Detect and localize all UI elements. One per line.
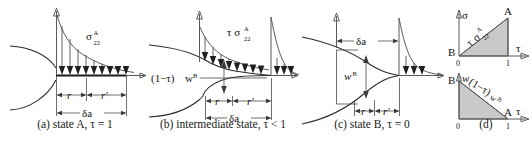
stress-label-a-sigma: σ [86, 30, 92, 42]
dim-rprime-b: r' [233, 95, 272, 107]
stress-label-a-sup: A [94, 29, 99, 36]
panel-d-top-plot: σ τ B A 0 1 τ σ 22 A [448, 5, 529, 68]
panel-b-drawing: τ σ 22 A (1−τ) w B [143, 0, 303, 132]
dim-deltaa-a-label: δa [82, 107, 92, 119]
opening-dim-c-sup: B [353, 70, 358, 77]
top-plot-point-b: B [448, 46, 455, 58]
dim-rprime-a-label: r' [101, 89, 108, 101]
opening-label-b-w: w [185, 72, 193, 84]
bottom-plot-xlabel: τ [516, 105, 521, 117]
crack-flank-lower-b [149, 92, 205, 117]
dim-deltaa-c-label: δa [356, 35, 366, 47]
bottom-plot-curve-label-w: w [488, 93, 498, 104]
stress-label-a-sub: 22 [94, 39, 101, 46]
panel-d-caption: (d) [440, 118, 532, 130]
traction-arrows-b [202, 37, 294, 75]
opening-dim-c-w: w [344, 70, 352, 82]
dim-rprime-b-label: r' [247, 95, 254, 107]
dim-r-a: r [57, 89, 87, 101]
panel-a-drawing: σ 22 A r r' [0, 0, 150, 132]
top-plot-ylabel: σ [462, 9, 468, 21]
dim-r-c-label: r [361, 105, 366, 117]
panel-b: τ σ 22 A (1−τ) w B [143, 0, 303, 132]
stress-label-b-tau-sigma: τ σ [227, 26, 240, 38]
stress-label-b-sup: A [244, 25, 249, 32]
stress-envelope-b-right [271, 17, 299, 75]
panel-c: δa w B r [296, 0, 448, 132]
dim-rprime-c: r' [375, 105, 400, 117]
dim-r-b: r [206, 95, 233, 107]
panel-c-drawing: δa w B r [296, 0, 448, 132]
panel-b-caption: (b) intermediate state, τ < 1 [143, 118, 303, 130]
crack-flank-lower-a [10, 80, 56, 110]
crack-flank-upper-a [10, 46, 56, 68]
dim-deltaa-a: δa [57, 104, 127, 119]
dim-r-c: r [355, 105, 375, 117]
stress-label-b: τ σ 22 A [227, 25, 251, 42]
figure-root: σ 22 A r r' [0, 0, 532, 166]
top-plot-tick-0: 0 [456, 59, 460, 68]
dim-deltaa-c: δa [337, 32, 399, 47]
bottom-plot-point-b: B [448, 74, 455, 86]
bottom-plot-point-a: A [504, 106, 512, 118]
dim-r-a-label: r [67, 89, 72, 101]
top-plot-point-a: A [504, 5, 512, 17]
opening-label-b-prefix: (1−τ) [151, 72, 175, 85]
dim-r-b-label: r [215, 95, 220, 107]
dim-rprime-a: r' [87, 89, 127, 101]
traction-arrows-c [403, 56, 425, 75]
panel-d-drawing: σ τ B A 0 1 τ σ 22 A [440, 0, 532, 132]
panel-d: σ τ B A 0 1 τ σ 22 A [440, 0, 532, 132]
stress-label-b-sub: 22 [244, 35, 251, 42]
top-plot-xlabel: τ [516, 42, 521, 54]
opening-label-b-sup: B [193, 72, 198, 79]
panel-c-caption: (c) state B, τ = 0 [296, 118, 448, 130]
stress-label-a: σ 22 A [86, 29, 100, 46]
top-plot-tick-1: 1 [506, 59, 510, 68]
dim-rprime-c-label: r' [383, 105, 390, 117]
opening-dim-c: w B [337, 50, 369, 104]
panel-a: σ 22 A r r' [0, 0, 150, 132]
panel-a-caption: (a) state A, τ = 1 [0, 118, 150, 130]
opening-label-b: (1−τ) w B [151, 60, 267, 94]
